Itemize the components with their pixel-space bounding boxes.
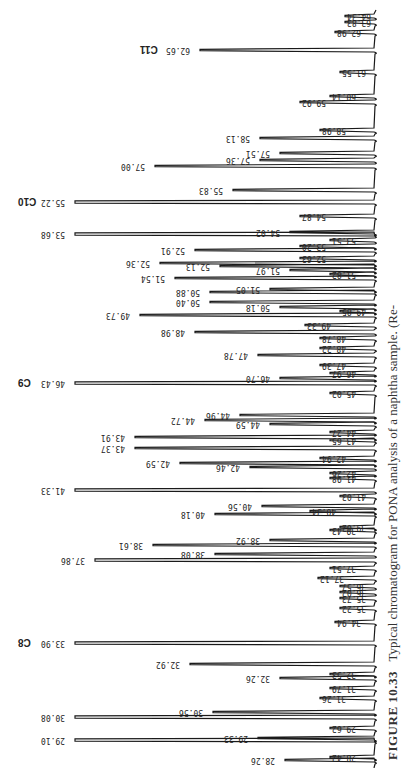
carbon-marker-label: C9 <box>18 377 31 388</box>
peak-retention-label: 58.98 <box>322 126 346 134</box>
peak-retention-label: 53.51 <box>332 236 356 244</box>
peak-retention-label: 51.54 <box>141 274 165 282</box>
peak-retention-label: 55.22 <box>41 198 65 206</box>
peak-retention-label: 29.62 <box>332 724 356 732</box>
peak-retention-label: 28.26 <box>251 756 275 764</box>
figure-number: FIGURE 10.33 <box>385 671 400 760</box>
peak-retention-label: 60.14 <box>332 92 356 100</box>
peak-retention-label: 44.59 <box>236 420 260 428</box>
carbon-marker-label: C11 <box>140 44 158 55</box>
peak-retention-label: 42.46 <box>216 463 240 471</box>
peak-retention-label: 51.05 <box>236 285 260 293</box>
peak-retention-label: 54.87 <box>302 212 326 220</box>
carbon-marker-label: C8 <box>18 637 31 648</box>
peak-retention-label: 32.53 <box>332 670 356 678</box>
peak-retention-label: 50.40 <box>176 298 200 306</box>
caption-text: Typical chromatogram for PONA analysis o… <box>385 305 400 662</box>
peak-retention-label: 41.03 <box>342 492 366 500</box>
peak-retention-label: 44.96 <box>206 411 230 419</box>
peak-retention-label: 55.83 <box>199 186 223 194</box>
peak-retention-label: 38.08 <box>181 550 205 558</box>
peak-retention-label: 42.94 <box>322 454 346 462</box>
peak-retention-label: 52.36 <box>126 259 150 267</box>
peak-retention-label: 52.63 <box>302 254 326 262</box>
peak-retention-label: 46.43 <box>41 379 65 387</box>
carbon-marker-c10: C10 <box>18 196 36 207</box>
peak-retention-label: 28.42 <box>332 753 356 761</box>
peak-retention-label: 42.59 <box>146 459 170 467</box>
peak-retention-label: 50.18 <box>246 303 270 311</box>
peak-retention-label: 61.55 <box>342 68 366 76</box>
peak-retention-label: 43.37 <box>101 444 125 452</box>
peak-retention-label: 41.33 <box>41 486 65 494</box>
peak-retention-label: 49.33 <box>307 321 331 329</box>
peak-retention-label: 29.33 <box>224 734 248 742</box>
peak-retention-label: 48.78 <box>322 334 346 342</box>
peak-retention-label: 48.22 <box>322 344 346 352</box>
carbon-marker-c9: C9 <box>18 377 31 388</box>
peak-retention-label: 31.26 <box>322 694 346 702</box>
peak-retention-label: 57.36 <box>226 156 250 164</box>
peak-retention-label: 30.08 <box>41 713 65 721</box>
peak-retention-label: 49.73 <box>106 311 130 319</box>
peak-retention-label: 37.12 <box>320 574 344 582</box>
peak-retention-label: 47.78 <box>224 351 248 359</box>
peak-retention-label: 49.85 <box>342 307 366 315</box>
peak-retention-label: 41.98 <box>332 474 356 482</box>
peak-retention-label: 44.72 <box>171 416 195 424</box>
peak-retention-label: 37.86 <box>61 556 85 564</box>
peak-retention-label: 38.61 <box>119 541 143 549</box>
peak-retention-label: 29.10 <box>41 736 65 744</box>
carbon-marker-c11: C11 <box>140 44 158 55</box>
carbon-marker-c8: C8 <box>18 637 31 648</box>
peak-retention-label: 59.92 <box>302 98 326 106</box>
peak-retention-label: 53.68 <box>41 230 65 238</box>
peak-retention-label: 43.91 <box>101 433 125 441</box>
peak-retention-label: 50.88 <box>176 288 200 296</box>
figure-caption: FIGURE 10.33 Typical chromatogram for PO… <box>385 305 401 760</box>
peak-retention-label: 54.02 <box>256 228 280 236</box>
peak-retention-label: 32.26 <box>246 674 270 682</box>
peak-retention-label: 32.92 <box>156 660 180 668</box>
peak-retention-label: 39.43 <box>332 526 356 534</box>
peak-retention-label: 47.39 <box>322 361 346 369</box>
peak-retention-label: 58.13 <box>226 134 250 142</box>
peak-retention-label: 45.02 <box>332 389 356 397</box>
peak-retention-label: 30.56 <box>179 708 203 716</box>
peak-retention-label: 37.51 <box>332 564 356 572</box>
peak-retention-label: 62.98 <box>337 28 361 36</box>
peak-retention-label: 57.00 <box>121 162 145 170</box>
peak-retention-label: 34.94 <box>337 618 361 626</box>
peak-retention-label: 44.27 <box>332 428 356 436</box>
peak-retention-label: 63.83 <box>347 18 371 26</box>
peak-retention-label: 40.34 <box>312 507 336 515</box>
peak-retention-label: 53.20 <box>302 242 326 250</box>
peak-retention-label: 40.18 <box>181 510 205 518</box>
peak-retention-label: 52.13 <box>186 262 210 270</box>
peak-retention-label: 52.91 <box>161 246 185 254</box>
peak-retention-label: 38.92 <box>236 536 260 544</box>
peak-retention-label: 31.79 <box>332 684 356 692</box>
peak-retention-label: 62.65 <box>166 46 190 54</box>
peak-retention-label: 35.73 <box>342 594 366 602</box>
peak-retention-label: 51.97 <box>256 266 280 274</box>
peak-retention-label: 46.97 <box>332 369 356 377</box>
peak-retention-label: 51.82 <box>332 270 356 278</box>
peak-retention-label: 48.98 <box>161 328 185 336</box>
peak-retention-label: 40.56 <box>228 502 252 510</box>
peak-retention-label: 33.90 <box>41 639 65 647</box>
peak-retention-label: 46.70 <box>246 374 270 382</box>
carbon-marker-label: C10 <box>18 196 36 207</box>
peak-retention-label: 35.22 <box>342 604 366 612</box>
peak-retention-label: 43.65 <box>332 436 356 444</box>
